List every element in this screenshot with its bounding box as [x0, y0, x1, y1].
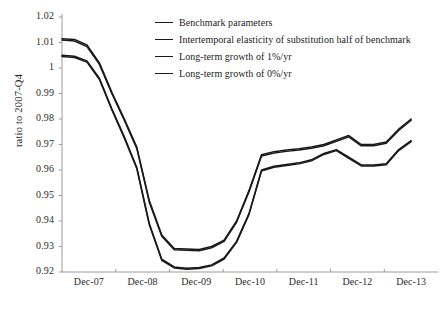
legend-label: Long-term growth of 0%/yr [179, 68, 292, 79]
legend-item-benchmark-parameters[interactable]: Benchmark parameters [155, 14, 411, 31]
chart-container: ratio to 2007-Q4 1.021.0110.990.980.970.… [0, 0, 444, 312]
legend-item-long-term-growth-0pct[interactable]: Long-term growth of 0%/yr [155, 65, 411, 82]
legend-label: Long-term growth of 1%/yr [179, 51, 292, 62]
legend-label: Benchmark parameters [179, 17, 272, 28]
chart-legend: Benchmark parameters Intertemporal elast… [155, 14, 411, 82]
series-line [62, 55, 411, 268]
legend-item-intertemporal-elasticity[interactable]: Intertemporal elasticity of substitution… [155, 31, 411, 48]
legend-line-icon [155, 22, 173, 23]
legend-line-icon [155, 73, 173, 74]
legend-line-icon [155, 39, 173, 40]
legend-label: Intertemporal elasticity of substitution… [179, 34, 411, 45]
legend-line-icon [155, 56, 173, 57]
legend-item-long-term-growth-1pct[interactable]: Long-term growth of 1%/yr [155, 48, 411, 65]
